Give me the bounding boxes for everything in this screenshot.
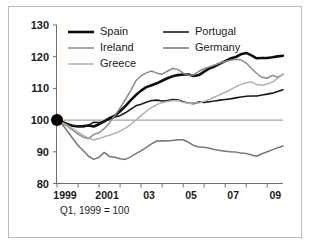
y-tick-label-130: 130 bbox=[31, 19, 49, 31]
legend-label-spain: Spain bbox=[100, 25, 128, 37]
chart-svg: 8090100110120130 1999200103050709 SpainP… bbox=[0, 0, 312, 246]
x-tick-label-2009: 09 bbox=[269, 189, 281, 201]
chart-legend: SpainPortugalIrelandGermanyGreece bbox=[68, 25, 241, 69]
origin-marker-dot bbox=[51, 114, 63, 126]
line-chart: 8090100110120130 1999200103050709 SpainP… bbox=[0, 0, 312, 246]
y-tick-label-110: 110 bbox=[31, 82, 49, 94]
y-tick-label-80: 80 bbox=[37, 178, 49, 190]
x-tick-label-2007: 07 bbox=[227, 189, 239, 201]
x-tick-label-2003: 03 bbox=[143, 189, 155, 201]
legend-label-portugal: Portugal bbox=[195, 25, 236, 37]
y-tick-label-100: 100 bbox=[31, 114, 49, 126]
x-axis: 1999200103050709 bbox=[53, 184, 283, 201]
series-group bbox=[57, 53, 283, 160]
series-line-greece bbox=[57, 74, 283, 140]
y-tick-label-120: 120 bbox=[31, 51, 49, 63]
series-line-portugal bbox=[57, 90, 283, 127]
y-tick-label-group: 8090100110120130 bbox=[31, 19, 49, 190]
x-tick-label-group: 1999200103050709 bbox=[53, 189, 281, 201]
chart-caption: Q1, 1999 = 100 bbox=[60, 205, 130, 216]
x-tick-label-1999: 1999 bbox=[53, 189, 77, 201]
legend-label-greece: Greece bbox=[100, 57, 136, 69]
x-tick-label-2001: 2001 bbox=[95, 189, 119, 201]
legend-label-germany: Germany bbox=[195, 41, 241, 53]
legend-label-ireland: Ireland bbox=[100, 41, 134, 53]
x-tick-label-2005: 05 bbox=[185, 189, 197, 201]
y-axis: 8090100110120130 bbox=[31, 19, 57, 190]
y-tick-label-90: 90 bbox=[37, 146, 49, 158]
x-tick-group bbox=[57, 184, 267, 188]
